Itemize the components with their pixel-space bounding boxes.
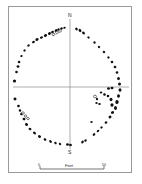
north-label: N xyxy=(68,13,72,18)
standing-stone-marker xyxy=(117,77,120,80)
standing-stone-marker xyxy=(113,66,116,69)
standing-stone-marker xyxy=(28,127,32,131)
standing-stone-marker xyxy=(63,26,66,29)
fallen-stone-marker xyxy=(24,115,27,118)
standing-stone-marker xyxy=(116,71,119,74)
standing-stone-marker xyxy=(27,44,30,47)
standing-stone-marker xyxy=(87,36,90,39)
standing-stone-marker xyxy=(78,28,82,32)
standing-stone-marker xyxy=(43,34,47,38)
standing-stone-marker xyxy=(111,111,115,115)
standing-stone-marker xyxy=(18,61,21,64)
standing-stone-marker xyxy=(13,80,16,83)
standing-stone-marker xyxy=(17,104,20,107)
south-label: S xyxy=(68,150,71,155)
standing-stone-marker xyxy=(104,121,108,125)
standing-stone-marker xyxy=(14,98,17,101)
standing-stone-marker xyxy=(100,91,103,93)
fallen-stone-marker xyxy=(21,112,24,115)
standing-stone-marker xyxy=(115,100,119,104)
standing-stone-marker xyxy=(100,126,103,129)
standing-stone-marker xyxy=(84,139,87,143)
standing-stone-marker xyxy=(92,133,96,137)
standing-stone-marker xyxy=(98,103,101,105)
standing-stone-marker xyxy=(58,142,61,145)
standing-stone-marker xyxy=(119,88,122,91)
standing-stone-marker xyxy=(35,38,39,42)
site-plan: N S 0 Feet 50 xyxy=(0,0,142,184)
standing-stone-marker xyxy=(32,40,36,43)
standing-stone-marker xyxy=(107,56,110,59)
fallen-stone-marker xyxy=(52,33,56,36)
standing-stone-marker xyxy=(97,45,100,48)
standing-stone-marker xyxy=(66,143,69,146)
scale-right-tick-label: 50 xyxy=(102,163,106,167)
standing-stone-marker xyxy=(69,144,72,146)
standing-stone-marker xyxy=(108,115,112,119)
standing-stone-marker xyxy=(111,87,114,89)
standing-stone-marker xyxy=(37,134,41,138)
standing-stone-marker xyxy=(114,106,118,110)
standing-stone-marker xyxy=(110,98,113,101)
standing-stone-marker xyxy=(15,71,18,73)
stone-markers xyxy=(13,26,122,146)
standing-stone-marker xyxy=(33,131,37,135)
standing-stone-marker xyxy=(96,98,98,101)
scale-unit-label: Feet xyxy=(65,164,73,168)
standing-stone-marker xyxy=(90,121,92,123)
standing-stone-marker xyxy=(47,32,51,36)
standing-stone-marker xyxy=(118,82,121,85)
standing-stone-marker xyxy=(49,140,53,144)
plan-drawing xyxy=(0,0,142,184)
standing-stone-marker xyxy=(25,123,29,127)
standing-stone-marker xyxy=(22,117,26,120)
figure-plate: N S 0 Feet 50 xyxy=(0,0,142,184)
standing-stone-marker xyxy=(117,94,120,98)
standing-stone-marker xyxy=(20,55,23,58)
standing-stone-marker xyxy=(103,93,106,96)
fallen-stone-marker xyxy=(94,95,97,98)
standing-stone-marker xyxy=(110,61,113,64)
standing-stone-marker xyxy=(93,41,96,44)
standing-stone-marker xyxy=(75,27,79,31)
standing-stone-marker xyxy=(102,50,105,53)
scale-bar: 0 Feet 50 xyxy=(38,163,106,172)
standing-stone-marker xyxy=(43,138,47,142)
standing-stone-marker xyxy=(110,103,113,107)
standing-stone-marker xyxy=(54,141,57,145)
standing-stone-marker xyxy=(95,102,97,104)
standing-stone-marker xyxy=(17,65,20,68)
standing-stone-marker xyxy=(23,49,26,52)
standing-stone-marker xyxy=(107,87,110,89)
standing-stone-marker xyxy=(40,36,44,40)
standing-stone-marker xyxy=(18,109,21,112)
standing-stone-marker xyxy=(81,140,85,144)
standing-stone-marker xyxy=(106,95,109,98)
standing-stone-marker xyxy=(96,129,100,132)
fallen-stone-marker xyxy=(26,117,29,120)
standing-stone-marker xyxy=(81,31,85,35)
scale-left-tick-label: 0 xyxy=(38,163,40,167)
